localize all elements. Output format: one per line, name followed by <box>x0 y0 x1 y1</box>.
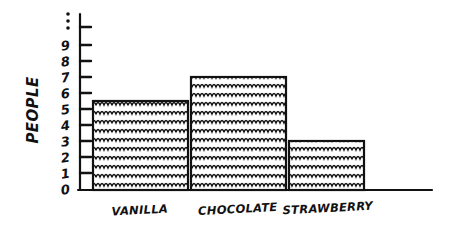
bar-chart: 9 8 7 6 5 4 3 2 1 0 PEOPLE VANILLA CHOCO <box>0 0 468 229</box>
y-axis-ticks <box>80 45 91 173</box>
bar-chocolate <box>191 77 286 190</box>
y-tick-label-8: 8 <box>60 53 71 69</box>
bar-vanilla-fill <box>93 101 188 190</box>
y-tick-label-0: 0 <box>60 181 71 197</box>
bar-vanilla <box>93 101 188 190</box>
y-tick-label-9: 9 <box>60 37 71 53</box>
axis-continues-ellipsis-icon <box>66 12 70 30</box>
bar-chocolate-fill <box>191 77 286 190</box>
x-tick-label-chocolate: CHOCOLATE <box>198 200 278 218</box>
y-tick-label-7: 7 <box>60 69 72 85</box>
y-tick-label-5: 5 <box>60 101 71 117</box>
y-tick-label-4: 4 <box>59 117 71 133</box>
bar-strawberry-fill <box>289 141 364 190</box>
y-tick-label-2: 2 <box>60 149 71 165</box>
chart-canvas: 9 8 7 6 5 4 3 2 1 0 PEOPLE VANILLA CHOCO <box>0 0 468 229</box>
y-tick-label-1: 1 <box>60 165 71 181</box>
x-tick-label-vanilla: VANILLA <box>111 202 168 219</box>
bar-strawberry <box>289 141 364 190</box>
x-tick-label-strawberry: STRAWBERRY <box>282 199 375 218</box>
y-axis-title: PEOPLE <box>24 76 42 144</box>
y-tick-label-6: 6 <box>60 85 71 101</box>
y-tick-label-3: 3 <box>60 133 71 149</box>
